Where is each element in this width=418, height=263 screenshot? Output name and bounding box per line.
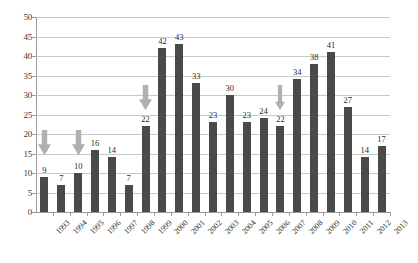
y-axis: 05101520253035404550 bbox=[0, 17, 32, 212]
bar-value-label-2004: 30 bbox=[220, 84, 240, 93]
bar-chart: 05101520253035404550 9710161472242433323… bbox=[0, 0, 418, 263]
x-tick-mark-2008 bbox=[306, 212, 307, 216]
bar-2004[interactable] bbox=[226, 95, 234, 212]
x-axis-label-2007: 2007 bbox=[291, 219, 308, 236]
gridline-35 bbox=[36, 76, 390, 77]
bar-2001[interactable] bbox=[175, 44, 183, 212]
bar-value-label-2009: 38 bbox=[304, 53, 324, 62]
bar-2000[interactable] bbox=[158, 48, 166, 212]
bar-2012[interactable] bbox=[361, 157, 369, 212]
x-axis-label-2005: 2005 bbox=[257, 219, 274, 236]
y-tick-mark-40 bbox=[32, 56, 36, 57]
x-tick-mark-1994 bbox=[70, 212, 71, 216]
bar-value-label-2008: 34 bbox=[287, 68, 307, 77]
bar-value-label-1998: 7 bbox=[119, 174, 139, 183]
bar-2008[interactable] bbox=[293, 79, 301, 212]
bar-value-label-1995: 10 bbox=[68, 162, 88, 171]
bar-2009[interactable] bbox=[310, 64, 318, 212]
bar-2011[interactable] bbox=[344, 107, 352, 212]
x-tick-mark-2000 bbox=[171, 212, 172, 216]
bar-value-label-1997: 14 bbox=[102, 146, 122, 155]
y-tick-label-45: 45 bbox=[6, 33, 32, 42]
arrow-1993-icon bbox=[38, 130, 51, 155]
bar-1996[interactable] bbox=[91, 150, 99, 212]
x-tick-mark-2002 bbox=[205, 212, 206, 216]
x-axis-label-1994: 1994 bbox=[72, 219, 89, 236]
x-tick-mark-2005 bbox=[255, 212, 256, 216]
y-tick-label-20: 20 bbox=[6, 130, 32, 139]
x-tick-mark-2003 bbox=[221, 212, 222, 216]
x-axis-label-2004: 2004 bbox=[241, 219, 258, 236]
x-axis-label-2010: 2010 bbox=[342, 219, 359, 236]
y-tick-label-50: 50 bbox=[6, 13, 32, 22]
y-tick-mark-25 bbox=[32, 115, 36, 116]
bar-value-label-2003: 23 bbox=[203, 111, 223, 120]
y-tick-label-15: 15 bbox=[6, 150, 32, 159]
x-tick-mark-2010 bbox=[339, 212, 340, 216]
y-tick-mark-20 bbox=[32, 134, 36, 135]
bar-2003[interactable] bbox=[209, 122, 217, 212]
bar-2007[interactable] bbox=[276, 126, 284, 212]
x-axis-label-2008: 2008 bbox=[308, 219, 325, 236]
x-tick-mark-2006 bbox=[272, 212, 273, 216]
bar-2006[interactable] bbox=[260, 118, 268, 212]
x-tick-mark-2001 bbox=[188, 212, 189, 216]
bar-value-label-2012: 14 bbox=[355, 146, 375, 155]
bar-value-label-2013: 17 bbox=[372, 135, 392, 144]
bar-1998[interactable] bbox=[125, 185, 133, 212]
bar-2010[interactable] bbox=[327, 52, 335, 212]
bar-2005[interactable] bbox=[243, 122, 251, 212]
x-axis-label-2003: 2003 bbox=[224, 219, 241, 236]
x-axis-label-1999: 1999 bbox=[156, 219, 173, 236]
arrow-1999-icon bbox=[139, 85, 152, 110]
bar-2002[interactable] bbox=[192, 83, 200, 212]
bar-value-label-2001: 43 bbox=[169, 33, 189, 42]
bar-value-label-1994: 7 bbox=[51, 174, 71, 183]
y-tick-label-35: 35 bbox=[6, 72, 32, 81]
bar-value-label-2010: 41 bbox=[321, 41, 341, 50]
y-tick-label-25: 25 bbox=[6, 111, 32, 120]
x-axis-label-2013: 2013 bbox=[392, 219, 409, 236]
y-tick-label-0: 0 bbox=[6, 208, 32, 217]
bar-value-label-1999: 22 bbox=[136, 115, 156, 124]
gridline-50 bbox=[36, 17, 390, 18]
bar-1993[interactable] bbox=[40, 177, 48, 212]
gridline-40 bbox=[36, 56, 390, 57]
x-axis-label-2011: 2011 bbox=[358, 219, 375, 236]
x-axis-label-2002: 2002 bbox=[207, 219, 224, 236]
bar-1995[interactable] bbox=[74, 173, 82, 212]
y-tick-label-40: 40 bbox=[6, 52, 32, 61]
x-axis-label-1995: 1995 bbox=[89, 219, 106, 236]
x-axis-label-2000: 2000 bbox=[173, 219, 190, 236]
y-tick-label-30: 30 bbox=[6, 91, 32, 100]
x-tick-mark-1998 bbox=[137, 212, 138, 216]
bar-value-label-2011: 27 bbox=[338, 96, 358, 105]
y-tick-mark-35 bbox=[32, 76, 36, 77]
x-tick-mark-2004 bbox=[238, 212, 239, 216]
gridline-0 bbox=[36, 212, 390, 213]
bar-value-label-2007: 22 bbox=[270, 115, 290, 124]
x-axis-label-1997: 1997 bbox=[123, 219, 140, 236]
bar-1999[interactable] bbox=[142, 126, 150, 212]
gridline-45 bbox=[36, 37, 390, 38]
y-tick-mark-0 bbox=[32, 212, 36, 213]
y-tick-mark-15 bbox=[32, 154, 36, 155]
bar-1994[interactable] bbox=[57, 185, 65, 212]
bar-2013[interactable] bbox=[378, 146, 386, 212]
x-axis-label-2006: 2006 bbox=[274, 219, 291, 236]
x-axis-label-2009: 2009 bbox=[325, 219, 342, 236]
bar-1997[interactable] bbox=[108, 157, 116, 212]
x-axis-label-1998: 1998 bbox=[139, 219, 156, 236]
x-axis-label-1996: 1996 bbox=[106, 219, 123, 236]
arrow-1995-icon bbox=[72, 130, 85, 155]
x-tick-mark-2012 bbox=[373, 212, 374, 216]
arrow-2007-icon bbox=[275, 85, 285, 110]
y-tick-mark-50 bbox=[32, 17, 36, 18]
x-tick-mark-2013 bbox=[390, 212, 391, 216]
x-tick-mark-2007 bbox=[289, 212, 290, 216]
y-tick-mark-10 bbox=[32, 173, 36, 174]
x-axis-label-1993: 1993 bbox=[55, 219, 72, 236]
x-tick-mark-1995 bbox=[87, 212, 88, 216]
x-tick-mark-1993 bbox=[53, 212, 54, 216]
x-tick-mark-1999 bbox=[154, 212, 155, 216]
